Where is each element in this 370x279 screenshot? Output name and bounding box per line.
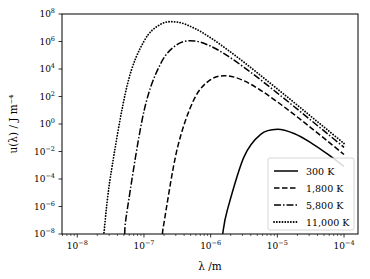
y-tick-base: 10 bbox=[34, 174, 46, 184]
y-tick-label: 10−2 bbox=[34, 145, 55, 157]
x-tick-exponent: −4 bbox=[345, 239, 355, 247]
y-tick-exponent: −4 bbox=[45, 172, 55, 180]
legend-label: 11,000 K bbox=[306, 217, 350, 228]
x-tick-base: 10 bbox=[200, 241, 212, 251]
y-tick-exponent: −8 bbox=[45, 227, 55, 235]
y-tick-exponent: 0 bbox=[51, 117, 55, 125]
x-tick-label: 10−6 bbox=[200, 239, 221, 251]
y-tick-label: 100 bbox=[39, 117, 55, 129]
y-tick-label: 10−4 bbox=[34, 172, 55, 184]
x-tick-base: 10 bbox=[334, 241, 346, 251]
y-tick-label: 108 bbox=[39, 7, 55, 19]
x-tick-exponent: −5 bbox=[278, 239, 288, 247]
y-tick-label: 104 bbox=[39, 62, 55, 74]
x-tick-exponent: −7 bbox=[145, 239, 155, 247]
x-tick-exponent: −6 bbox=[212, 239, 222, 247]
y-tick-exponent: 6 bbox=[51, 35, 55, 43]
y-tick-base: 10 bbox=[34, 147, 46, 157]
x-tick-label: 10−5 bbox=[267, 239, 288, 251]
x-tick-label: 10−8 bbox=[67, 239, 88, 251]
legend-label: 1,800 K bbox=[306, 183, 344, 194]
y-tick-labels: 10810610410210010−210−410−610−8 bbox=[34, 7, 55, 239]
y-tick-base: 10 bbox=[39, 37, 51, 47]
y-tick-exponent: −2 bbox=[45, 145, 55, 153]
y-tick-base: 10 bbox=[34, 229, 46, 239]
y-tick-base: 10 bbox=[39, 64, 51, 74]
y-tick-base: 10 bbox=[34, 202, 46, 212]
x-axis-label: λ /m bbox=[198, 260, 222, 272]
y-axis-label: u(λ) / J m⁻⁴ bbox=[7, 94, 19, 153]
x-tick-labels: 10−810−710−610−510−4 bbox=[67, 239, 355, 251]
y-tick-base: 10 bbox=[39, 119, 51, 129]
y-tick-exponent: 4 bbox=[51, 62, 55, 70]
y-tick-label: 106 bbox=[39, 35, 55, 47]
x-tick-base: 10 bbox=[67, 241, 79, 251]
chart: 10−810−710−610−510−4 10810610410210010−2… bbox=[0, 0, 370, 279]
y-tick-label: 10−8 bbox=[34, 227, 55, 239]
y-tick-label: 10−6 bbox=[34, 200, 55, 212]
y-tick-base: 10 bbox=[39, 9, 51, 19]
x-tick-base: 10 bbox=[133, 241, 145, 251]
legend-label: 300 K bbox=[306, 166, 335, 177]
legend: 300 K1,800 K5,800 K11,000 K bbox=[268, 158, 354, 230]
x-tick-base: 10 bbox=[267, 241, 279, 251]
x-tick-exponent: −8 bbox=[78, 239, 88, 247]
x-tick-label: 10−4 bbox=[334, 239, 355, 251]
y-tick-exponent: 8 bbox=[51, 7, 55, 15]
legend-label: 5,800 K bbox=[306, 200, 344, 211]
y-tick-exponent: −6 bbox=[45, 200, 55, 208]
y-tick-base: 10 bbox=[39, 92, 51, 102]
y-tick-exponent: 2 bbox=[51, 90, 55, 98]
x-tick-label: 10−7 bbox=[133, 239, 154, 251]
y-tick-label: 102 bbox=[39, 90, 55, 102]
